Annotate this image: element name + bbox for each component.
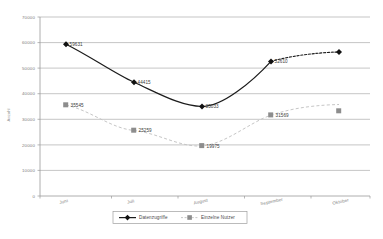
y-tick-label-60000: 60000 bbox=[22, 40, 35, 45]
y-tick-label-40000: 40000 bbox=[22, 91, 35, 96]
y-axis-title: Anzahl bbox=[6, 109, 11, 122]
data-point-users-september bbox=[268, 112, 273, 117]
y-tick-label-20000: 20000 bbox=[22, 143, 35, 148]
y-tick-label-0: 0 bbox=[32, 194, 35, 199]
data-point-users-juni bbox=[63, 102, 68, 107]
y-tick-label-30000: 30000 bbox=[22, 117, 35, 122]
line-chart: 70000 60000 50000 40000 30000 20000 1000… bbox=[0, 0, 383, 239]
data-label-users-juli: 25259 bbox=[139, 128, 153, 133]
legend-label-einzelne-nutzer: Einzelne Nutzer bbox=[201, 215, 235, 220]
data-label-users-juni: 35545 bbox=[71, 103, 85, 108]
y-tick-label-10000: 10000 bbox=[22, 168, 35, 173]
data-label-users-august: 19975 bbox=[207, 144, 221, 149]
data-label-access-august: 35033 bbox=[206, 104, 220, 109]
data-point-users-juli bbox=[131, 128, 136, 133]
legend-marker-square-icon bbox=[187, 215, 192, 220]
legend-item-einzelne-nutzer[interactable]: Einzelne Nutzer bbox=[181, 215, 235, 220]
legend-label-datenzugriffe: Datenzugriffe bbox=[139, 215, 168, 220]
data-point-users-august bbox=[199, 143, 204, 148]
y-tick-label-70000: 70000 bbox=[22, 15, 35, 20]
chart-container: 70000 60000 50000 40000 30000 20000 1000… bbox=[0, 0, 383, 239]
y-tick-label-50000: 50000 bbox=[22, 66, 35, 71]
data-label-users-september: 31569 bbox=[276, 113, 290, 118]
data-point-users-oktober bbox=[336, 108, 341, 113]
data-label-access-september: 52610 bbox=[275, 59, 289, 64]
data-label-access-juni: 59631 bbox=[70, 42, 84, 47]
data-label-access-juli: 44415 bbox=[138, 80, 152, 85]
